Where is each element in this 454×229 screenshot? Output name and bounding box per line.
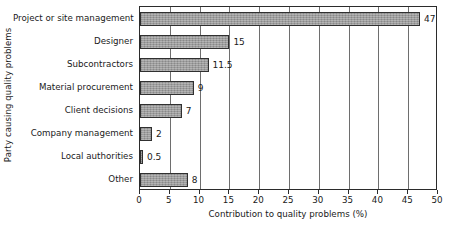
- bar-value-label: 15: [233, 37, 244, 47]
- category-label: Material procurement: [13, 82, 133, 92]
- category-label: Client decisions: [13, 105, 133, 115]
- x-axis-tick: [348, 190, 349, 194]
- bar: [140, 58, 209, 72]
- category-axis-labels: Project or site managementDesignerSubcon…: [16, 6, 136, 190]
- x-axis-tick-label: 10: [193, 195, 204, 206]
- bar-value-label: 2: [156, 129, 162, 139]
- x-axis-tick: [258, 190, 259, 194]
- category-label: Company management: [13, 128, 133, 138]
- bar: [140, 35, 229, 49]
- x-axis-tick: [318, 190, 319, 194]
- bar-value-label: 7: [186, 106, 192, 116]
- x-axis-tick-label: 25: [282, 195, 293, 206]
- y-axis-title-label: Party causing quality problems: [3, 28, 13, 162]
- x-axis-tick: [437, 190, 438, 194]
- x-axis-tick-label: 15: [223, 195, 234, 206]
- y-axis-title: Party causing quality problems: [0, 0, 16, 190]
- bar: [140, 104, 182, 118]
- plot-area: 471511.59720.58: [139, 6, 437, 190]
- bar-value-label: 9: [198, 83, 204, 93]
- bar: [140, 150, 143, 164]
- bar-value-label: 47: [424, 14, 435, 24]
- x-axis-tick-label: 20: [253, 195, 264, 206]
- category-label: Other: [13, 174, 133, 184]
- x-axis-tick-label: 35: [342, 195, 353, 206]
- x-axis-tick-label: 5: [166, 195, 172, 206]
- bar: [140, 81, 194, 95]
- category-label: Project or site management: [13, 13, 133, 23]
- bar-value-label: 8: [192, 175, 198, 185]
- x-axis-tick: [139, 190, 140, 194]
- bar-value-label: 11.5: [213, 60, 233, 70]
- x-axis-tick: [377, 190, 378, 194]
- bar: [140, 12, 420, 26]
- x-axis-tick-labels: 05101520253035404550: [139, 195, 437, 207]
- category-label: Subcontractors: [13, 59, 133, 69]
- x-axis-title: Contribution to quality problems (%): [139, 209, 437, 219]
- x-axis-tick-label: 40: [372, 195, 383, 206]
- x-axis-tick-label: 0: [136, 195, 142, 206]
- x-axis-tick: [199, 190, 200, 194]
- bar-chart: Party causing quality problems Project o…: [0, 0, 454, 229]
- bar: [140, 173, 188, 187]
- x-axis-tick: [169, 190, 170, 194]
- x-axis-tick-label: 45: [402, 195, 413, 206]
- bar-value-label: 0.5: [147, 152, 161, 162]
- bar: [140, 127, 152, 141]
- x-axis-tick: [288, 190, 289, 194]
- x-axis-tick: [407, 190, 408, 194]
- x-axis-tick-label: 50: [431, 195, 442, 206]
- bars-layer: 471511.59720.58: [140, 7, 436, 189]
- category-label: Designer: [13, 36, 133, 46]
- x-axis-tick: [228, 190, 229, 194]
- category-label: Local authorities: [13, 151, 133, 161]
- x-axis-tick-label: 30: [312, 195, 323, 206]
